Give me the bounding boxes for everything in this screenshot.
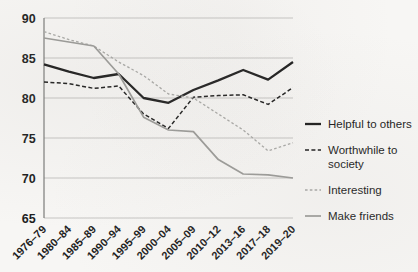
legend-label: Make friends [328, 210, 394, 222]
x-axis-tick-labels: 1976–791980–841985–891990–941995–992000–… [10, 222, 298, 261]
y-tick-label: 75 [22, 132, 36, 146]
y-axis-tick-labels: 908580757065 [22, 12, 36, 226]
chart-legend: Helpful to othersWorthwhile tosocietyInt… [305, 118, 412, 222]
gridlines [44, 18, 293, 218]
line-chart: 908580757065 1976–791980–841985–891990–9… [0, 0, 418, 272]
series-line-worthwhile-to-society [44, 82, 293, 128]
series-line-helpful-to-others [44, 62, 293, 103]
legend-label-continued: society [328, 158, 364, 170]
legend-label: Interesting [328, 184, 382, 196]
series-line-make-friends [44, 38, 293, 178]
data-series [44, 32, 293, 178]
legend-label: Helpful to others [328, 118, 412, 130]
y-tick-label: 90 [22, 12, 36, 26]
y-tick-label: 80 [22, 92, 36, 106]
y-tick-label: 70 [22, 172, 36, 186]
chart-canvas: 908580757065 1976–791980–841985–891990–9… [0, 0, 418, 272]
series-line-interesting [44, 32, 293, 151]
y-tick-label: 85 [22, 52, 36, 66]
y-tick-label: 65 [22, 212, 36, 226]
legend-label: Worthwhile to [328, 144, 397, 156]
